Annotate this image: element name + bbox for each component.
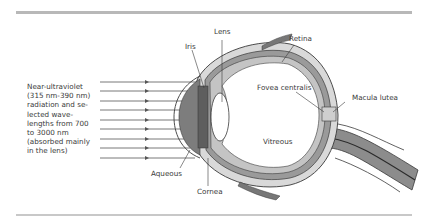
label-cornea: Cornea [197, 187, 223, 197]
lens [211, 93, 229, 141]
label-retina: Retina [289, 34, 312, 44]
label-lens: Lens [214, 27, 231, 37]
radiation-caption: Near-ultraviolet (315 nm-390 nm) radiati… [27, 82, 107, 156]
label-iris: Iris [185, 42, 196, 52]
vitreous-body [222, 63, 319, 168]
label-aqueous: Aqueous [151, 169, 182, 179]
eye-diagram-figure: Near-ultraviolet (315 nm-390 nm) radiati… [0, 0, 428, 218]
label-vitreous: Vitreous [263, 137, 293, 147]
macula-lutea [322, 107, 336, 121]
bottom-rule [16, 214, 412, 216]
label-macula-lutea: Macula lutea [352, 93, 398, 103]
iris [198, 86, 208, 148]
label-fovea-centralis: Fovea centralis [257, 83, 312, 93]
optic-nerve [330, 128, 418, 190]
